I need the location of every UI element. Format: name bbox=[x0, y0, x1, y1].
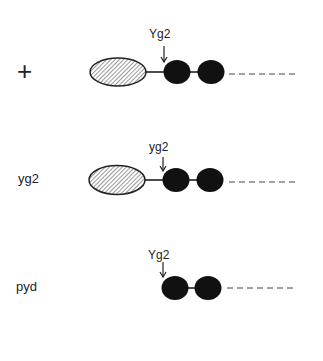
dark-domain-2 bbox=[198, 60, 225, 84]
site-label-wildtype: Yg2 bbox=[149, 27, 170, 41]
row-yg2-diagram bbox=[89, 157, 296, 195]
domain-diagram bbox=[0, 0, 323, 361]
dark-domain-1 bbox=[164, 60, 191, 84]
dark-domain-1 bbox=[162, 276, 189, 300]
site-label-yg2: yg2 bbox=[149, 140, 168, 154]
site-label-pyd: Yg2 bbox=[148, 248, 169, 262]
dark-domain-1 bbox=[163, 168, 190, 192]
row-wildtype-diagram bbox=[90, 46, 296, 86]
genotype-label-yg2: yg2 bbox=[18, 171, 39, 186]
hatched-domain bbox=[90, 58, 146, 86]
genotype-label-wildtype: + bbox=[17, 58, 32, 84]
dark-domain-2 bbox=[195, 276, 222, 300]
genotype-label-pyd: pyd bbox=[16, 279, 37, 294]
hatched-domain bbox=[89, 166, 145, 195]
dark-domain-2 bbox=[197, 168, 224, 192]
row-pyd-diagram bbox=[160, 262, 294, 300]
